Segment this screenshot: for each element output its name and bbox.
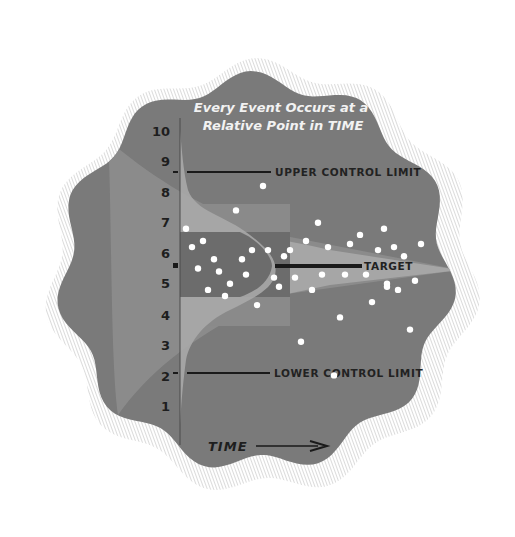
data-point — [315, 220, 321, 226]
data-point — [309, 287, 315, 293]
data-point — [287, 247, 293, 253]
tick-4: 4 — [161, 308, 170, 323]
data-point — [381, 226, 387, 232]
data-point — [391, 244, 397, 250]
tick-2: 2 — [161, 369, 170, 384]
data-point — [249, 247, 255, 253]
tick-9: 9 — [161, 154, 170, 169]
data-point — [369, 299, 375, 305]
data-point — [233, 207, 239, 213]
data-point — [183, 226, 189, 232]
data-point — [216, 268, 222, 274]
data-point — [342, 271, 348, 277]
data-point — [395, 287, 401, 293]
data-point — [401, 253, 407, 259]
data-point — [418, 241, 424, 247]
data-point — [363, 271, 369, 277]
data-point — [260, 183, 266, 189]
data-point — [211, 256, 217, 262]
data-point — [254, 302, 260, 308]
target-tick — [173, 263, 178, 268]
data-point — [265, 247, 271, 253]
data-point — [347, 241, 353, 247]
data-point — [319, 271, 325, 277]
tick-5: 5 — [161, 276, 170, 291]
lcl-label: LOWER CONTROL LIMIT — [274, 367, 423, 379]
data-point — [331, 372, 337, 378]
target-label: TARGET — [364, 260, 413, 272]
data-point — [281, 253, 287, 259]
data-point — [412, 278, 418, 284]
tick-3: 3 — [161, 338, 170, 353]
tick-7: 7 — [161, 215, 170, 230]
tick-8: 8 — [161, 185, 170, 200]
title-line-2: Relative Point in TIME — [203, 118, 364, 133]
data-point — [239, 256, 245, 262]
data-point — [227, 281, 233, 287]
tick-6: 6 — [161, 246, 170, 261]
data-point — [303, 238, 309, 244]
data-point — [407, 326, 413, 332]
data-point — [384, 284, 390, 290]
data-point — [337, 314, 343, 320]
tick-1: 1 — [161, 399, 170, 414]
data-point — [276, 284, 282, 290]
data-point — [298, 339, 304, 345]
time-label: TIME — [208, 439, 248, 454]
data-point — [375, 247, 381, 253]
data-point — [271, 274, 277, 280]
data-point — [205, 287, 211, 293]
control-chart-diagram: 10 9 8 7 6 5 4 3 2 1 Every Event Occurs … — [0, 0, 515, 537]
data-point — [357, 232, 363, 238]
data-point — [325, 244, 331, 250]
ucl-label: UPPER CONTROL LIMIT — [275, 166, 422, 178]
data-point — [195, 265, 201, 271]
data-point — [292, 274, 298, 280]
tick-10: 10 — [152, 124, 170, 139]
title-line-1: Every Event Occurs at a — [194, 100, 368, 115]
data-point — [243, 271, 249, 277]
data-point — [189, 244, 195, 250]
data-point — [200, 238, 206, 244]
data-point — [222, 293, 228, 299]
